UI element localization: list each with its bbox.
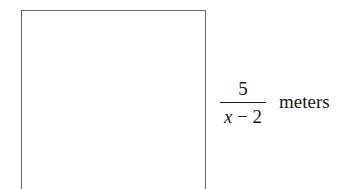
denominator-constant: − 2 — [232, 106, 262, 127]
rectangle-shape — [21, 10, 206, 189]
fraction-bar — [220, 102, 266, 103]
side-length-label: 5 x − 2 meters — [219, 78, 330, 128]
fraction-denominator: x − 2 — [224, 106, 262, 128]
unit-label: meters — [279, 91, 330, 113]
fraction-numerator: 5 — [238, 78, 248, 100]
fraction: 5 x − 2 — [219, 78, 267, 128]
